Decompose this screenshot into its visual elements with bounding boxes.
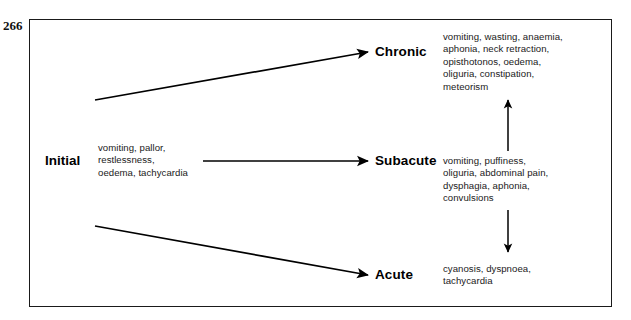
stage-label-chronic: Chronic (375, 44, 427, 59)
stage-label-initial: Initial (45, 153, 80, 168)
symptom-list-subacute: vomiting, puffiness, oliguria, abdominal… (443, 155, 548, 205)
stage-label-acute: Acute (375, 267, 413, 282)
symptom-list-acute: cyanosis, dyspnoea, tachycardia (443, 263, 531, 288)
symptom-list-initial: vomiting, pallor, restlessness, oedema, … (98, 142, 188, 179)
page-number: 266 (3, 18, 23, 34)
figure-page: 266 Initial vomiting, pallor, restlessne… (0, 0, 631, 320)
symptom-list-chronic: vomiting, wasting, anaemia, aphonia, nec… (443, 31, 563, 93)
stage-label-subacute: Subacute (375, 153, 437, 168)
